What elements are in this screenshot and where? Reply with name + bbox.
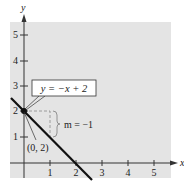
y-tick-label: 1: [13, 131, 18, 142]
y-tick-label: 5: [13, 29, 18, 40]
x-tick-label: 2: [74, 167, 79, 178]
y-axis-label: y: [20, 2, 26, 13]
y-tick-label: 2: [13, 105, 18, 116]
x-tick-label: 5: [152, 167, 157, 178]
slope-label: m = −1: [64, 119, 93, 130]
x-tick-label: 1: [48, 167, 53, 178]
y-tick-label: 3: [13, 80, 18, 91]
plot-panel: [10, 22, 171, 178]
x-axis-arrow-icon: [170, 161, 178, 166]
x-tick-label: 3: [100, 167, 105, 178]
x-tick-label: 4: [126, 167, 131, 178]
point-0-2: [21, 108, 27, 114]
y-axis-arrow-icon: [22, 14, 27, 22]
point-label: (0, 2): [27, 142, 49, 154]
x-axis-label: x: [179, 157, 184, 168]
equation-label: y = −x + 2: [40, 83, 88, 94]
y-tick-label: 4: [13, 55, 18, 66]
chart: x y 1 2 3 4 5 1 2 3 4 5 m = −1: [0, 0, 184, 186]
